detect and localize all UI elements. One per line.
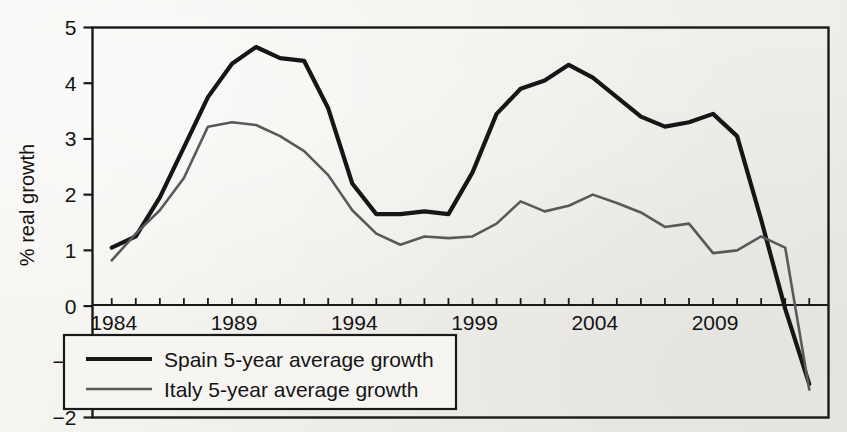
x-axis-tick-labels: 198419891994199920042009 xyxy=(90,311,738,334)
x-tick-label: 2009 xyxy=(692,311,739,334)
y-tick-label: 2 xyxy=(65,183,77,206)
y-tick-label: 1 xyxy=(65,239,77,262)
x-tick-label: 1999 xyxy=(451,311,498,334)
chart-legend: Spain 5-year average growthItaly 5-year … xyxy=(64,335,456,409)
y-tick-label: 5 xyxy=(65,16,77,39)
legend-label: Spain 5-year average growth xyxy=(164,348,434,371)
y-axis-title: % real growth xyxy=(16,144,38,266)
x-tick-label: 1994 xyxy=(331,311,378,334)
x-tick-label: 1984 xyxy=(90,311,137,334)
x-tick-label: 2004 xyxy=(571,311,618,334)
y-tick-label: 0 xyxy=(65,295,77,318)
x-tick-label: 1989 xyxy=(211,311,258,334)
legend-label: Italy 5-year average growth xyxy=(164,378,418,401)
y-tick-label: 3 xyxy=(65,127,77,150)
growth-line-chart: 543210−1−2 198419891994199920042009 % re… xyxy=(0,0,847,432)
y-tick-label: 4 xyxy=(65,72,77,95)
chart-figure: 543210−1−2 198419891994199920042009 % re… xyxy=(0,0,847,432)
